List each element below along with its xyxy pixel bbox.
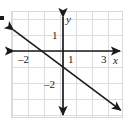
y-tick-label-1: 1 [52, 30, 58, 41]
y-tick-label-neg2: –2 [44, 79, 55, 90]
x-axis-name: x [113, 55, 118, 66]
labels-layer: –2 1 3 x 1 –2 y [0, 0, 130, 127]
y-axis-name: y [66, 14, 71, 25]
x-tick-label-neg2: –2 [18, 54, 29, 65]
x-tick-label-3: 3 [101, 54, 107, 65]
coordinate-plane-figure: –2 1 3 x 1 –2 y [0, 0, 130, 127]
x-tick-label-1: 1 [68, 54, 74, 65]
